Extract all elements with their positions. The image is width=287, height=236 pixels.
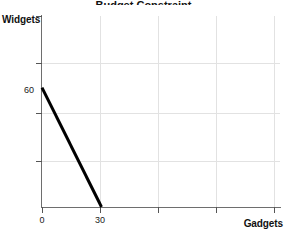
chart-title-remnant: Budget Constraint — [0, 0, 287, 5]
x-axis-tick-label-0: 0 — [39, 215, 44, 225]
gridline-vertical — [216, 16, 217, 207]
y-axis-tick — [36, 161, 42, 162]
x-axis-title: Gadgets — [244, 218, 283, 229]
x-axis-tick-label-30: 30 — [95, 215, 105, 225]
x-axis-tick — [42, 207, 43, 213]
gridline-horizontal — [42, 63, 280, 64]
plot-area — [42, 16, 280, 207]
chart-figure: Budget Constraint 60 0 30 Widgets Gadget… — [0, 0, 287, 236]
x-axis-tick — [216, 207, 217, 213]
y-axis-line — [41, 15, 42, 208]
gridline-vertical — [274, 16, 275, 207]
y-axis-title: Widgets — [2, 14, 40, 25]
gridline-vertical — [100, 16, 101, 207]
y-axis-tick — [36, 63, 42, 64]
gridline-horizontal — [42, 161, 280, 162]
x-axis-tick — [100, 207, 101, 213]
y-axis-tick-label-60: 60 — [24, 85, 34, 95]
gridline-vertical — [158, 16, 159, 207]
x-axis-tick — [274, 207, 275, 213]
gridline-horizontal — [42, 113, 280, 114]
x-axis-line — [41, 207, 281, 208]
x-axis-tick — [158, 207, 159, 213]
y-axis-tick — [36, 113, 42, 114]
